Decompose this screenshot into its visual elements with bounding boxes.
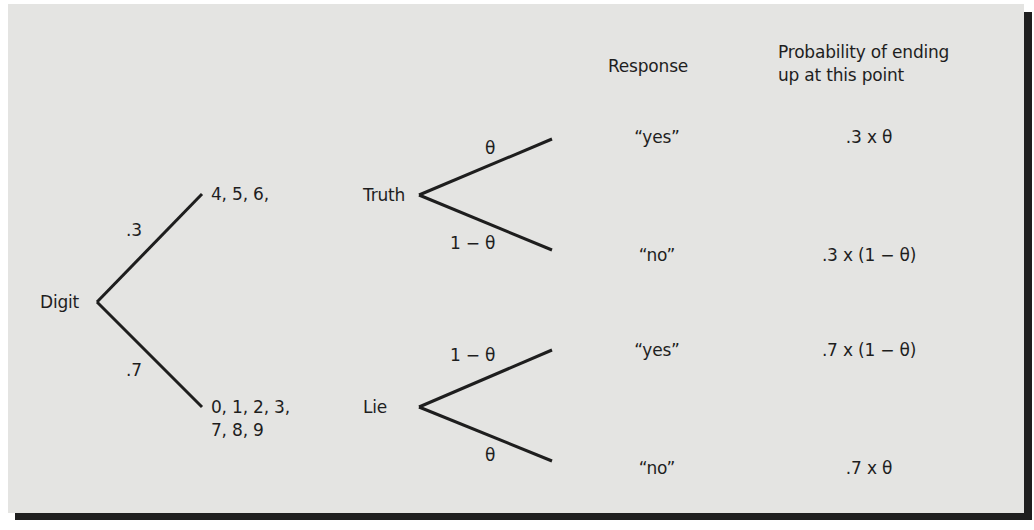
outcome-digits-upper: 4, 5, 6,	[211, 184, 269, 204]
prob-lie-upper: 1 − θ	[450, 345, 495, 365]
leaf-probability-1: .3 x θ	[846, 127, 892, 147]
outcome-digits-lower-line2: 7, 8, 9	[211, 420, 264, 440]
prob-digit-lower: .7	[126, 360, 142, 380]
prob-lie-lower: θ	[485, 445, 495, 465]
leaf-probability-2: .3 x (1 − θ)	[822, 245, 916, 265]
branch-digit-upper	[97, 194, 202, 302]
leaf-response-1: “yes”	[634, 127, 679, 147]
node-lie: Lie	[363, 397, 387, 417]
node-truth: Truth	[363, 185, 405, 205]
prob-truth-upper: θ	[485, 138, 495, 158]
outcome-digits-lower-line1: 0, 1, 2, 3,	[211, 397, 290, 417]
leaf-response-4: “no”	[639, 458, 675, 478]
header-probability-line2: up at this point	[778, 65, 904, 86]
node-digit: Digit	[40, 292, 79, 312]
prob-truth-lower: 1 − θ	[450, 233, 495, 253]
header-response: Response	[608, 56, 688, 77]
leaf-response-3: “yes”	[634, 340, 679, 360]
header-probability-line1: Probability of ending	[778, 42, 949, 63]
branch-digit-lower	[97, 302, 202, 407]
leaf-response-2: “no”	[639, 245, 675, 265]
prob-digit-upper: .3	[126, 220, 142, 240]
leaf-probability-3: .7 x (1 − θ)	[822, 340, 916, 360]
leaf-probability-4: .7 x θ	[846, 458, 892, 478]
